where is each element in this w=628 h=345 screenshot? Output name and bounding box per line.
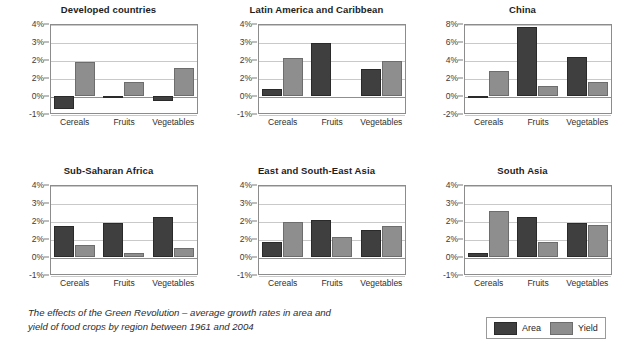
chart-panel: Latin America and Caribbean4%3%2%2%0%-1%… — [214, 2, 419, 154]
y-tick-mark — [44, 96, 49, 97]
y-tick-mark — [252, 203, 257, 204]
y-tick-mark — [458, 185, 463, 186]
legend-item-area: Area — [494, 322, 541, 335]
legend-swatch-yield — [550, 322, 573, 335]
x-tick-label: Cereals — [60, 117, 89, 127]
y-tick-mark — [252, 275, 257, 276]
chart-title: Developed countries — [6, 4, 211, 15]
bar-group — [258, 24, 307, 114]
x-tick-label: Fruits — [321, 278, 342, 288]
bar-groups — [258, 24, 406, 114]
y-tickmarks — [6, 185, 50, 275]
bar-yield — [75, 245, 95, 257]
bar-group — [99, 185, 148, 275]
bar-yield — [538, 86, 558, 96]
y-tick-mark — [44, 78, 49, 79]
bar-yield — [283, 58, 303, 96]
x-tick-label: Fruits — [113, 278, 134, 288]
y-tick-mark — [458, 114, 463, 115]
bar-groups — [50, 185, 198, 275]
bar-groups — [464, 185, 612, 275]
bar-area — [153, 217, 173, 257]
y-tick-mark — [252, 114, 257, 115]
bar-yield — [75, 62, 95, 96]
x-axis: CerealsFruitsVegetables — [464, 117, 612, 131]
y-tick-mark — [252, 78, 257, 79]
bar-group — [258, 185, 307, 275]
bar-yield — [124, 253, 144, 257]
legend-label-area: Area — [522, 323, 541, 333]
chart-panel: China8%6%4%2%0%-2%CerealsFruitsVegetable… — [420, 2, 625, 154]
chart-legend: Area Yield — [486, 317, 606, 339]
x-tick-label: Cereals — [268, 278, 297, 288]
x-axis: CerealsFruitsVegetables — [258, 278, 406, 292]
bar-yield — [588, 82, 608, 96]
y-tick-mark — [252, 96, 257, 97]
chart-title: Sub-Saharan Africa — [6, 165, 211, 176]
y-tick-mark — [44, 42, 49, 43]
gridline — [51, 115, 197, 116]
bar-group — [50, 24, 99, 114]
bar-area — [103, 96, 123, 98]
bar-area — [103, 223, 123, 257]
legend-item-yield: Yield — [550, 322, 598, 335]
chart-title: East and South-East Asia — [214, 165, 419, 176]
bar-yield — [332, 237, 352, 257]
y-tick-mark — [252, 24, 257, 25]
legend-swatch-area — [494, 322, 517, 335]
x-tick-label: Vegetables — [152, 278, 194, 288]
y-tick-mark — [458, 221, 463, 222]
x-axis: CerealsFruitsVegetables — [50, 117, 198, 131]
gridline — [259, 276, 405, 277]
chart-panel: Developed countries4%3%2%2%0%-1%CerealsF… — [6, 2, 211, 154]
y-tick-mark — [44, 24, 49, 25]
bar-group — [464, 185, 513, 275]
bar-yield — [174, 248, 194, 257]
x-tick-label: Vegetables — [360, 117, 402, 127]
y-tick-mark — [44, 239, 49, 240]
x-tick-label: Vegetables — [566, 278, 608, 288]
y-tick-mark — [458, 203, 463, 204]
y-tick-mark — [252, 239, 257, 240]
x-axis: CerealsFruitsVegetables — [464, 278, 612, 292]
y-tick-mark — [44, 275, 49, 276]
y-tick-mark — [44, 257, 49, 258]
x-tick-label: Fruits — [321, 117, 342, 127]
bar-groups — [464, 24, 612, 114]
y-tickmarks — [420, 185, 464, 275]
x-tick-label: Cereals — [60, 278, 89, 288]
bar-area — [311, 220, 331, 257]
bar-groups — [258, 185, 406, 275]
gridline — [465, 115, 611, 116]
y-tick-mark — [44, 203, 49, 204]
gridline — [465, 276, 611, 277]
bar-area — [468, 96, 488, 98]
y-tick-mark — [458, 60, 463, 61]
bar-group — [149, 185, 198, 275]
bar-yield — [489, 211, 509, 257]
x-tick-label: Cereals — [474, 117, 503, 127]
bar-group — [357, 185, 406, 275]
x-tick-label: Fruits — [527, 278, 548, 288]
bar-area — [468, 253, 488, 258]
bar-yield — [588, 225, 608, 257]
bar-yield — [489, 71, 509, 96]
x-tick-label: Cereals — [474, 278, 503, 288]
bar-yield — [538, 242, 558, 257]
chart-panel: East and South-East Asia4%3%2%2%0%-1%Cer… — [214, 163, 419, 315]
y-tick-mark — [458, 275, 463, 276]
bar-area — [567, 223, 587, 257]
bar-area — [517, 217, 537, 257]
x-axis: CerealsFruitsVegetables — [258, 117, 406, 131]
bar-group — [513, 185, 562, 275]
caption-line-1: The effects of the Green Revolution – av… — [28, 306, 348, 320]
y-tick-mark — [458, 24, 463, 25]
x-axis: CerealsFruitsVegetables — [50, 278, 198, 292]
bar-area — [311, 43, 331, 96]
small-multiples-figure: Developed countries4%3%2%2%0%-1%CerealsF… — [0, 0, 628, 345]
y-tick-mark — [458, 78, 463, 79]
figure-caption: The effects of the Green Revolution – av… — [28, 306, 348, 334]
y-tickmarks — [214, 185, 258, 275]
x-tick-label: Vegetables — [360, 278, 402, 288]
bar-yield — [382, 226, 402, 257]
